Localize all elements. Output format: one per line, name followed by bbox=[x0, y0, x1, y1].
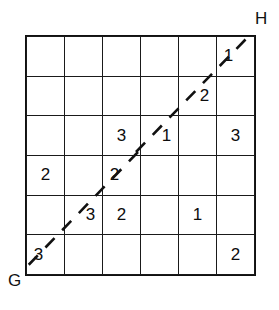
grid-cell[interactable] bbox=[141, 235, 179, 275]
grid-cell[interactable] bbox=[103, 235, 141, 275]
grid-cell-value: 1 bbox=[210, 47, 247, 64]
grid-cell[interactable]: 3 bbox=[217, 116, 255, 156]
grid-cell[interactable] bbox=[27, 37, 65, 77]
grid-cell[interactable] bbox=[65, 37, 103, 77]
grid-cell-value: 2 bbox=[96, 166, 133, 183]
grid-cell[interactable]: 1 bbox=[179, 195, 217, 235]
grid-cell-value: 3 bbox=[20, 246, 57, 263]
grid-cell[interactable]: 2 bbox=[103, 195, 141, 235]
grid-cell[interactable] bbox=[141, 155, 179, 195]
grid-cell[interactable]: 2 bbox=[179, 76, 217, 116]
grid-cell[interactable]: 3 bbox=[65, 195, 103, 235]
grid-row: 32 bbox=[27, 235, 255, 275]
grid-row: 313 bbox=[27, 116, 255, 156]
grid-cell[interactable] bbox=[141, 37, 179, 77]
grid-cell[interactable] bbox=[65, 116, 103, 156]
grid-cell[interactable]: 3 bbox=[27, 235, 65, 275]
grid-row: 321 bbox=[27, 195, 255, 235]
grid-cell[interactable] bbox=[103, 76, 141, 116]
grid-row: 22 bbox=[27, 155, 255, 195]
grid-cell[interactable]: 2 bbox=[217, 235, 255, 275]
grid-cell[interactable] bbox=[27, 116, 65, 156]
grid-cell[interactable] bbox=[217, 155, 255, 195]
grid-cell[interactable]: 2 bbox=[103, 155, 141, 195]
grid-cell-value: 3 bbox=[217, 127, 254, 144]
grid-row: 1 bbox=[27, 37, 255, 77]
corner-label-h: H bbox=[255, 10, 267, 27]
grid-cell-value: 2 bbox=[103, 206, 140, 223]
grid-cell[interactable] bbox=[179, 155, 217, 195]
grid-cell[interactable] bbox=[217, 195, 255, 235]
grid-cell[interactable] bbox=[65, 235, 103, 275]
grid-row: 2 bbox=[27, 76, 255, 116]
grid-cell[interactable]: 2 bbox=[27, 155, 65, 195]
grid-cell-value: 2 bbox=[217, 246, 254, 263]
grid-body: 123132232132 bbox=[27, 37, 255, 275]
grid-cell[interactable]: 3 bbox=[103, 116, 141, 156]
grid-cell[interactable] bbox=[141, 76, 179, 116]
grid-cell-value: 2 bbox=[27, 166, 64, 183]
grid-cell[interactable]: 1 bbox=[217, 37, 255, 77]
grid-cell[interactable] bbox=[103, 37, 141, 77]
corner-label-g: G bbox=[8, 272, 21, 289]
grid-cell[interactable] bbox=[27, 76, 65, 116]
number-grid: 123132232132 bbox=[26, 36, 255, 275]
grid-cell[interactable] bbox=[179, 235, 217, 275]
grid-area: 123132232132 bbox=[26, 36, 248, 268]
grid-cell[interactable] bbox=[27, 195, 65, 235]
grid-cell[interactable]: 1 bbox=[141, 116, 179, 156]
grid-cell-value: 3 bbox=[103, 127, 140, 144]
grid-diagram-figure: H 123132232132 G bbox=[0, 0, 279, 310]
grid-cell-value: 1 bbox=[179, 206, 216, 223]
grid-cell-value: 1 bbox=[148, 127, 185, 144]
grid-cell-value: 2 bbox=[186, 87, 223, 104]
grid-cell[interactable] bbox=[141, 195, 179, 235]
grid-cell[interactable] bbox=[65, 76, 103, 116]
